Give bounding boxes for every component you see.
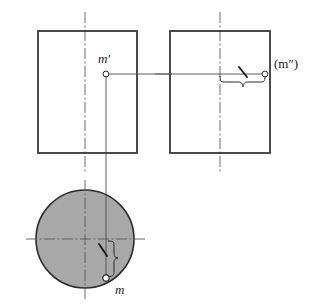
label-m: m [115, 282, 124, 297]
label-m-prime: m′ [98, 51, 110, 66]
label-m-double-prime: (m″) [274, 56, 298, 71]
point-marker-m-double-prime [262, 71, 268, 77]
point-marker-m-prime [103, 71, 109, 77]
orthographic-projection-figure: m′ (m″) m [0, 0, 318, 308]
side-view-tick-mark [239, 67, 247, 77]
front-view-rectangle [38, 31, 137, 153]
point-marker-m [103, 275, 109, 281]
technical-drawing-canvas: m′ (m″) m [0, 0, 318, 308]
side-view-brace [220, 76, 265, 87]
